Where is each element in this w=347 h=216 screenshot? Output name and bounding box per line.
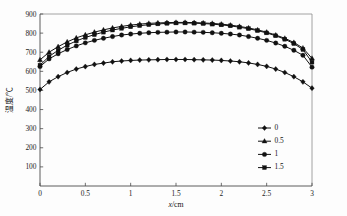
data-point-square-marker <box>292 42 296 46</box>
data-point-square-marker <box>283 37 287 41</box>
legend-item-1[interactable]: 1 <box>258 149 279 158</box>
series-line-0 <box>40 59 312 89</box>
data-point-circle-marker <box>246 34 250 38</box>
data-point-diamond-marker <box>201 57 206 62</box>
legend-item-0[interactable]: 0 <box>258 123 279 132</box>
data-point-diamond-marker <box>292 74 297 79</box>
data-point-square-marker <box>219 23 223 27</box>
data-point-diamond-marker <box>174 57 179 62</box>
data-point-square-marker <box>183 21 187 25</box>
data-point-diamond-marker <box>65 70 70 75</box>
data-point-diamond-marker <box>83 64 88 69</box>
data-point-diamond-marker <box>110 59 115 64</box>
x-tick-label: 1.5 <box>171 189 181 198</box>
data-point-circle-marker <box>228 32 232 36</box>
data-point-circle-marker <box>74 44 78 48</box>
data-point-circle-marker <box>201 30 205 34</box>
y-tick-label: 800 <box>25 29 36 38</box>
data-point-circle-marker <box>65 47 69 51</box>
legend-item-label: 0.5 <box>275 136 285 145</box>
data-point-diamond-marker <box>273 66 278 71</box>
data-point-circle-marker <box>174 30 178 34</box>
y-tick-label: 900 <box>25 10 36 19</box>
y-tick-label: 100 <box>25 162 36 171</box>
data-point-square-marker <box>201 22 205 26</box>
data-point-square-marker <box>56 48 60 52</box>
data-point-square-marker <box>138 24 142 28</box>
data-point-diamond-marker <box>92 62 97 67</box>
data-point-circle-marker <box>101 36 105 40</box>
data-point-square-marker <box>263 166 267 170</box>
data-point-square-marker <box>274 34 278 38</box>
data-point-diamond-marker <box>165 57 170 62</box>
legend-item-0.5[interactable]: 0.5 <box>258 136 284 145</box>
data-point-diamond-marker <box>183 57 188 62</box>
data-point-circle-marker <box>165 30 169 34</box>
data-point-diamond-marker <box>219 58 224 63</box>
data-point-diamond-marker <box>119 58 124 63</box>
legend-item-1.5[interactable]: 1.5 <box>258 162 284 171</box>
data-point-square-marker <box>147 23 151 27</box>
series-1 <box>38 30 314 70</box>
data-point-square-marker <box>265 31 269 35</box>
data-point-square-marker <box>74 39 78 43</box>
legend-item-label: 1.5 <box>275 162 285 171</box>
data-point-circle-marker <box>255 36 259 40</box>
data-point-diamond-marker <box>264 64 269 69</box>
data-point-square-marker <box>301 48 305 52</box>
data-point-diamond-marker <box>262 125 267 130</box>
data-point-circle-marker <box>183 30 187 34</box>
data-point-circle-marker <box>156 30 160 34</box>
data-point-diamond-marker <box>283 70 288 75</box>
y-tick-label: 300 <box>25 124 36 133</box>
x-tick-label: 0 <box>38 189 42 198</box>
data-point-circle-marker <box>292 48 296 52</box>
series-0.5 <box>37 20 314 62</box>
legend-item-label: 1 <box>275 149 279 158</box>
y-tick-label: 400 <box>25 105 36 114</box>
x-tick-label: 2 <box>219 189 223 198</box>
data-point-diamond-marker <box>56 74 61 79</box>
data-point-triangle-marker <box>47 50 52 54</box>
data-point-diamond-marker <box>147 57 152 62</box>
y-tick-label: 200 <box>25 143 36 152</box>
data-point-diamond-marker <box>210 57 215 62</box>
data-point-square-marker <box>83 36 87 40</box>
data-point-circle-marker <box>262 152 266 156</box>
data-point-circle-marker <box>219 31 223 35</box>
data-point-square-marker <box>165 21 169 25</box>
data-point-diamond-marker <box>137 57 142 62</box>
series-layer <box>37 20 314 92</box>
x-tick-label: 2.5 <box>262 189 272 198</box>
data-point-square-marker <box>92 33 96 37</box>
y-tick-label: 500 <box>25 86 36 95</box>
y-tick-label: 600 <box>25 67 36 76</box>
legend-item-label: 0 <box>275 123 279 132</box>
data-point-circle-marker <box>92 38 96 42</box>
data-point-diamond-marker <box>128 58 133 63</box>
data-point-square-marker <box>111 28 115 32</box>
data-point-square-marker <box>120 26 124 30</box>
data-point-circle-marker <box>83 41 87 45</box>
data-point-diamond-marker <box>301 79 306 84</box>
data-point-circle-marker <box>128 32 132 36</box>
data-point-diamond-marker <box>237 59 242 64</box>
data-point-circle-marker <box>147 31 151 35</box>
chart-figure: 100200300400500600700800900 00.511.522.5… <box>0 0 347 216</box>
data-point-square-marker <box>256 29 260 33</box>
data-point-square-marker <box>174 21 178 25</box>
x-tick-label: 0.5 <box>81 189 91 198</box>
data-point-square-marker <box>38 63 42 67</box>
data-point-circle-marker <box>310 65 314 69</box>
data-point-circle-marker <box>274 41 278 45</box>
data-point-circle-marker <box>264 38 268 42</box>
data-point-circle-marker <box>192 30 196 34</box>
data-point-square-marker <box>192 21 196 25</box>
data-point-square-marker <box>156 22 160 26</box>
data-point-square-marker <box>102 30 106 34</box>
line-chart: 100200300400500600700800900 00.511.522.5… <box>0 0 347 216</box>
x-tick-label: 3 <box>310 189 314 198</box>
data-point-diamond-marker <box>192 57 197 62</box>
data-point-diamond-marker <box>310 86 315 91</box>
data-point-diamond-marker <box>246 60 251 65</box>
